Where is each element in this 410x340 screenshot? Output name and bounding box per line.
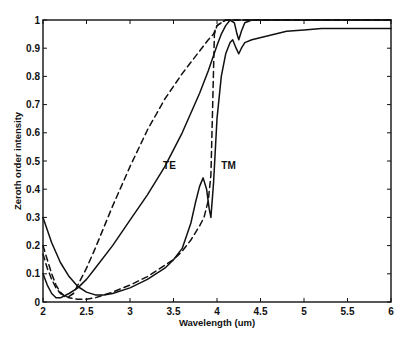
series-line-2: [43, 20, 391, 296]
line-chart: 22.533.544.555.56 00.10.20.30.40.50.60.7…: [0, 0, 410, 340]
y-tick-label: 0.2: [26, 240, 40, 251]
y-tick-label: 0.7: [26, 99, 40, 110]
x-tick-label: 5.5: [341, 306, 355, 317]
x-tick-label: 4.5: [254, 306, 268, 317]
annotation-tm: TM: [221, 160, 235, 171]
plot-frame: [43, 20, 391, 302]
x-tick-label: 2: [40, 306, 46, 317]
x-tick-label: 3.5: [167, 306, 181, 317]
series-line-0: [43, 20, 391, 298]
y-tick-label: 0: [34, 297, 40, 308]
y-tick-label: 0.8: [26, 71, 40, 82]
x-tick-label: 5: [301, 306, 307, 317]
x-tick-labels: 22.533.544.555.56: [40, 306, 394, 317]
y-tick-label: 1: [34, 15, 40, 26]
y-tick-labels: 00.10.20.30.40.50.60.70.80.91: [26, 15, 40, 308]
y-tick-label: 0.5: [26, 156, 40, 167]
x-tick-label: 3: [127, 306, 133, 317]
y-tick-label: 0.9: [26, 43, 40, 54]
y-axis-label: Zeroth order intensity: [12, 111, 23, 210]
ticks-layer: [43, 20, 391, 302]
annotation-te: TE: [163, 160, 176, 171]
series-line-1: [43, 29, 391, 295]
series-line-3: [43, 20, 391, 299]
y-tick-label: 0.4: [26, 184, 40, 195]
x-tick-label: 6: [388, 306, 394, 317]
x-tick-label: 4: [214, 306, 220, 317]
x-axis-label: Wavelength (um): [179, 317, 255, 328]
y-tick-label: 0.1: [26, 268, 40, 279]
series-layer: [43, 20, 391, 299]
y-tick-label: 0.3: [26, 212, 40, 223]
y-tick-label: 0.6: [26, 127, 40, 138]
x-tick-label: 2.5: [80, 306, 94, 317]
